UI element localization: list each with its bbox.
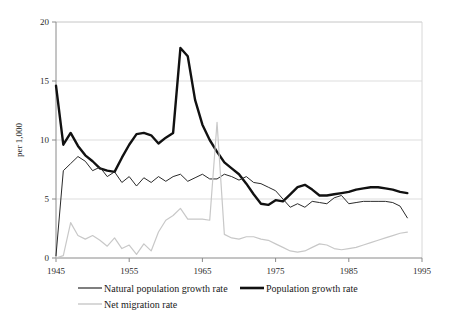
y-tick-label-10: 10	[40, 135, 50, 145]
y-axis-title: per 1,000	[14, 123, 24, 157]
y-tick-label-0: 0	[45, 253, 50, 263]
y-tick-label-5: 5	[45, 194, 50, 204]
x-tick-label-1975: 1975	[267, 266, 286, 276]
legend-label-1: Population growth rate	[266, 283, 358, 294]
x-tick-label-1955: 1955	[120, 266, 139, 276]
chart-canvas: 05101520194519551965197519851995per 1,00…	[0, 0, 452, 318]
legend-label-2: Net migration rate	[104, 299, 178, 310]
x-tick-label-1985: 1985	[340, 266, 359, 276]
population-growth-chart: 05101520194519551965197519851995per 1,00…	[0, 0, 452, 318]
legend-label-0: Natural population growth rate	[104, 283, 228, 294]
y-tick-label-15: 15	[40, 76, 50, 86]
x-tick-label-1995: 1995	[413, 266, 432, 276]
y-tick-label-20: 20	[40, 17, 50, 27]
x-tick-label-1945: 1945	[47, 266, 66, 276]
x-tick-label-1965: 1965	[193, 266, 212, 276]
